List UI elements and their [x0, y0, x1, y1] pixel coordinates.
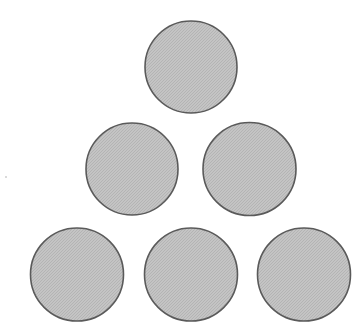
circle-bottom-right — [258, 228, 351, 321]
circle-middle-right — [203, 123, 296, 216]
circle-bottom-left — [31, 228, 124, 321]
circle-top — [145, 21, 237, 113]
circle-middle-left — [86, 123, 178, 215]
diagram-canvas — [0, 0, 360, 334]
circles-group — [31, 21, 351, 321]
stray-speck — [5, 176, 6, 177]
circle-bottom-middle — [145, 228, 238, 321]
circle-pyramid-diagram — [0, 0, 360, 334]
